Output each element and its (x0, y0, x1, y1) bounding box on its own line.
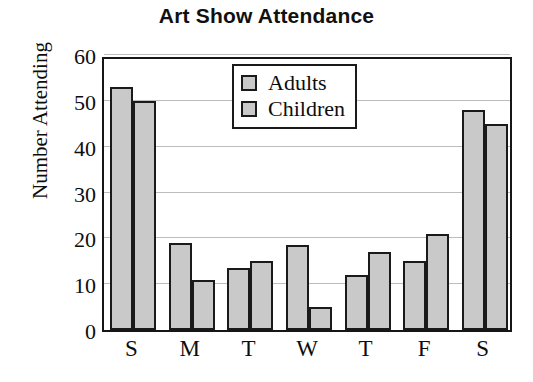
legend-item-children: Children (241, 96, 345, 122)
chart-container: Art Show Attendance Number Attending 010… (0, 0, 533, 382)
legend-label-adults: Adults (268, 72, 327, 94)
bar-adults-5 (403, 261, 426, 330)
bar-adults-4 (345, 275, 368, 330)
y-axis-tick-labels: 0102030405060 (44, 57, 96, 332)
bar-children-4 (368, 252, 391, 330)
x-tick-label: T (241, 337, 255, 360)
chart-legend: Adults Children (232, 64, 357, 129)
x-tick-label: F (418, 337, 431, 360)
y-tick-label: 50 (50, 92, 96, 114)
gridline (104, 54, 510, 55)
x-tick-label: S (476, 337, 489, 360)
bar-children-0 (133, 101, 156, 330)
bar-children-6 (485, 124, 508, 330)
x-tick-label: S (125, 337, 138, 360)
bar-children-2 (250, 261, 273, 330)
y-tick-label: 10 (50, 275, 96, 297)
y-tick-label: 60 (50, 46, 96, 68)
x-axis-tick-labels: SMTWTFS (102, 337, 512, 373)
bar-children-3 (309, 307, 332, 330)
bar-children-5 (426, 234, 449, 330)
bar-adults-1 (169, 243, 192, 330)
chart-title: Art Show Attendance (0, 4, 533, 28)
legend-label-children: Children (268, 98, 345, 120)
y-tick-label: 40 (50, 138, 96, 160)
bar-adults-3 (286, 245, 309, 330)
y-tick-label: 30 (50, 184, 96, 206)
legend-swatch-icon-children (241, 101, 257, 117)
bar-children-1 (192, 280, 215, 330)
legend-swatch-icon-adults (241, 75, 257, 91)
y-tick-label: 0 (50, 321, 96, 343)
x-tick-label: W (296, 337, 318, 360)
y-tick-label: 20 (50, 229, 96, 251)
bar-adults-2 (227, 268, 250, 330)
x-tick-label: T (359, 337, 373, 360)
bar-adults-6 (462, 110, 485, 330)
bar-adults-0 (110, 87, 133, 330)
legend-item-adults: Adults (241, 70, 345, 96)
x-tick-label: M (180, 337, 200, 360)
